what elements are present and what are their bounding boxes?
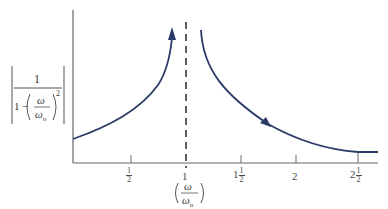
tick-label-two: 2: [292, 170, 298, 182]
tick-label-half: 12: [126, 167, 132, 184]
ylabel-omega: ω: [37, 94, 45, 106]
arrow-down-icon: [260, 117, 271, 127]
ylabel-exponent: 2: [56, 89, 60, 98]
xlabel-omega: ω: [184, 180, 192, 192]
ylabel-one-minus: 1 −: [14, 100, 28, 112]
tick-label-one-half: 112: [233, 167, 245, 184]
ylabel-numerator: 1: [34, 72, 40, 87]
curve-below-resonance: [73, 38, 172, 139]
arrow-up-icon: [168, 27, 176, 40]
tick-label-two-half: 212: [350, 167, 362, 184]
ylabel-omega-n: ωn: [35, 108, 46, 123]
x-ticks: [131, 152, 358, 163]
xlabel-omega-n: ωn: [182, 194, 193, 209]
curve-above-resonance: [201, 30, 378, 152]
chart-plot: [0, 0, 388, 209]
